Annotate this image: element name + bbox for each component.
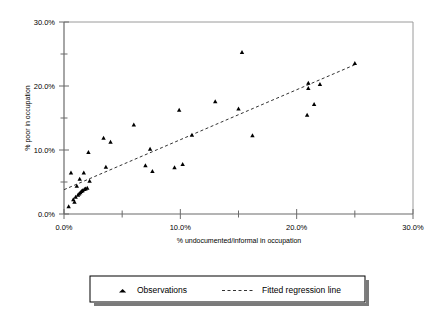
observation-marker	[150, 169, 154, 173]
y-tick-label-20: 20.0%	[34, 82, 56, 91]
observation-marker	[305, 113, 309, 117]
y-axis-title: % poor in occupation	[24, 85, 32, 150]
observation-marker	[213, 99, 217, 103]
fitted-regression-line	[64, 64, 356, 189]
observation-marker	[318, 82, 322, 86]
observation-marker	[104, 165, 108, 169]
observation-marker	[69, 170, 73, 174]
legend-label-fitted-regression-line: Fitted regression line	[262, 285, 341, 295]
observation-marker	[172, 165, 176, 169]
observation-marker	[86, 150, 90, 154]
x-tick-label-10: 10.0%	[170, 223, 192, 232]
x-axis-title: % undocumented/informal in occupation	[177, 237, 302, 245]
x-tick-label-30: 30.0%	[402, 223, 424, 232]
observation-marker	[82, 170, 86, 174]
observation-marker	[101, 136, 105, 140]
observation-marker	[306, 86, 310, 90]
observation-marker	[312, 102, 316, 106]
legend-label-observations: Observations	[137, 285, 187, 295]
chart-legend: Observations Fitted regression line	[90, 276, 369, 306]
y-tick-label-10: 10.0%	[34, 146, 56, 155]
y-tick-label-0: 0.0%	[38, 210, 55, 219]
observation-marker	[250, 133, 254, 137]
regression-line-path	[64, 64, 356, 189]
x-axis-tick-labels: 0.0%10.0%20.0%30.0%	[55, 223, 424, 232]
observation-marker	[87, 179, 91, 183]
x-tick-label-20: 20.0%	[286, 223, 308, 232]
chart-canvas: 0.0%10.0%20.0%30.0% 0.0%10.0%20.0%30.0% …	[0, 0, 446, 317]
observation-marker	[78, 177, 82, 181]
observation-marker	[306, 81, 310, 85]
x-tick-label-0: 0.0%	[55, 223, 72, 232]
observation-marker	[190, 133, 194, 137]
observation-marker	[177, 108, 181, 112]
observation-marker	[240, 50, 244, 54]
y-tick-label-30: 30.0%	[34, 18, 56, 27]
observation-marker	[132, 122, 136, 126]
observation-points	[66, 50, 357, 208]
observation-marker	[180, 162, 184, 166]
observation-marker	[143, 163, 147, 167]
observation-marker	[353, 61, 357, 65]
observation-marker	[236, 106, 240, 110]
observation-marker	[148, 147, 152, 151]
observation-marker	[66, 204, 70, 208]
scatter-chart-figure: 0.0%10.0%20.0%30.0% 0.0%10.0%20.0%30.0% …	[0, 0, 446, 317]
observation-marker	[108, 140, 112, 144]
y-axis-tick-labels: 0.0%10.0%20.0%30.0%	[34, 18, 56, 219]
plot-frame	[64, 22, 413, 214]
